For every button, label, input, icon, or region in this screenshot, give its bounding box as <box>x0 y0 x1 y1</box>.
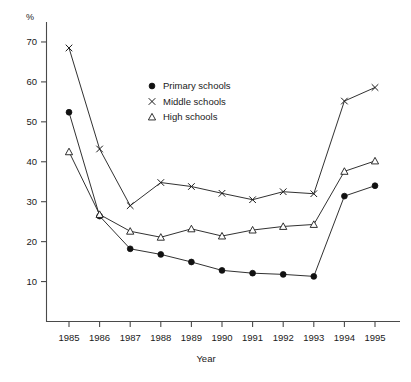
series-middle-schools <box>66 45 379 209</box>
x-tick-label: 1994 <box>334 332 355 343</box>
data-point-marker-circle <box>311 273 317 279</box>
data-point-marker-circle <box>219 267 225 273</box>
y-axis-unit-label: % <box>26 12 34 22</box>
y-tick-label: 40 <box>26 156 37 167</box>
y-tick-label: 10 <box>26 276 37 287</box>
data-point-marker-circle <box>250 270 256 276</box>
legend-item: Primary schools <box>149 80 231 91</box>
legend-label: High schools <box>163 111 218 122</box>
data-point-marker-circle <box>158 252 164 258</box>
data-point-marker-triangle <box>188 225 195 232</box>
x-tick-label: 1992 <box>273 332 294 343</box>
series-line <box>69 152 375 237</box>
y-tick-label: 50 <box>26 116 37 127</box>
y-axis: 10203040506070 % <box>26 12 47 322</box>
data-point-marker-triangle <box>127 228 134 235</box>
x-tick-label: 1985 <box>58 332 79 343</box>
legend-marker-circle <box>149 83 155 89</box>
x-axis-title: Year <box>196 353 215 364</box>
x-tick-label: 1987 <box>120 332 141 343</box>
data-point-marker-triangle <box>341 168 348 175</box>
x-tick-label: 1990 <box>211 332 232 343</box>
data-point-marker-triangle <box>65 148 72 155</box>
x-tick-label: 1991 <box>242 332 263 343</box>
x-tick-label: 1993 <box>303 332 324 343</box>
data-point-marker-circle <box>127 246 133 252</box>
legend-item: High schools <box>148 111 217 122</box>
data-point-marker-circle <box>189 259 195 265</box>
data-point-marker-triangle <box>371 157 378 164</box>
data-point-marker-circle <box>66 109 72 115</box>
line-chart-svg: 10203040506070 % 19851986198719881989199… <box>0 0 411 382</box>
x-tick-label: 1995 <box>364 332 385 343</box>
legend-item: Middle schools <box>149 96 226 107</box>
data-point-marker-circle <box>372 183 378 189</box>
y-tick-label: 20 <box>26 236 37 247</box>
y-tick-group: 10203040506070 <box>26 36 46 287</box>
legend-label: Primary schools <box>163 80 231 91</box>
y-tick-label: 70 <box>26 36 37 47</box>
y-tick-label: 60 <box>26 76 37 87</box>
series-line <box>69 48 375 206</box>
data-point-marker-circle <box>280 271 286 277</box>
x-tick-label: 1988 <box>150 332 171 343</box>
legend-label: Middle schools <box>163 96 226 107</box>
x-tick-group: 1985198619871988198919901991199219931994… <box>58 322 385 344</box>
legend-marker-triangle <box>148 113 155 120</box>
y-tick-label: 30 <box>26 196 37 207</box>
series-high-schools <box>65 148 378 240</box>
x-tick-label: 1986 <box>89 332 110 343</box>
chart-legend: Primary schoolsMiddle schoolsHigh school… <box>148 80 230 122</box>
series-line <box>69 112 375 276</box>
data-point-marker-triangle <box>310 221 317 228</box>
chart-container: 10203040506070 % 19851986198719881989199… <box>0 0 411 382</box>
x-tick-label: 1989 <box>181 332 202 343</box>
data-point-marker-circle <box>342 193 348 199</box>
x-axis: 1985198619871988198919901991199219931994… <box>47 322 401 365</box>
